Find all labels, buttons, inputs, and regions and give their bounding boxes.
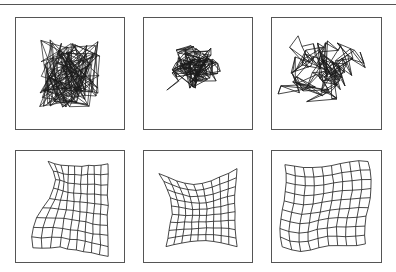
top-rule	[0, 4, 396, 5]
som-grid-plot	[16, 18, 124, 129]
panel-stage-6	[271, 150, 382, 263]
som-grid-plot	[272, 151, 381, 262]
panel-stage-1	[15, 17, 125, 130]
panel-stage-3	[271, 17, 382, 130]
panel-stage-2	[143, 17, 253, 130]
panel-stage-4	[15, 150, 125, 263]
som-grid-plot	[144, 18, 252, 129]
som-grid-plot	[272, 18, 381, 129]
som-grid-plot	[144, 151, 252, 262]
som-grid-plot	[16, 151, 124, 262]
panel-stage-5	[143, 150, 253, 263]
